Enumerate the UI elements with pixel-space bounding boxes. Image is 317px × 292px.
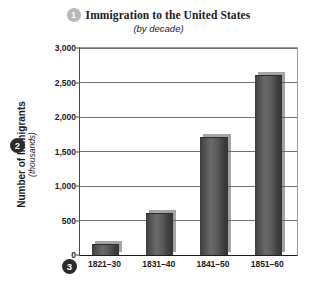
title-row: 1 Immigration to the United States <box>0 8 317 22</box>
y-axis-tick-label: 1,000 <box>55 181 76 191</box>
y-axis-tick-label: 2,000 <box>55 112 76 122</box>
x-axis-tick-label: 1851–60 <box>251 259 284 269</box>
bar-1841–50 <box>200 137 227 255</box>
y-axis-title: Number of Immigrants <box>16 101 27 208</box>
y-axis-title-rotated: Number of Immigrants (thousands) <box>16 101 37 208</box>
chart-subtitle: (by decade) <box>0 23 317 34</box>
x-axis-labels: 1821–301831–401841–501851–60 <box>79 259 298 275</box>
x-axis-tick-label: 1831–40 <box>142 259 175 269</box>
callout-badge-1: 1 <box>67 8 81 22</box>
y-axis-tick-label: 500 <box>62 216 76 226</box>
page-title: Immigration to the United States <box>86 9 251 21</box>
x-axis-tick-label: 1841–50 <box>196 259 229 269</box>
plot-area: 05001,0001,5002,0002,5003,000 <box>79 47 298 256</box>
callout-badge-3: 3 <box>62 259 77 274</box>
chart-header: 1 Immigration to the United States (by d… <box>0 8 317 34</box>
y-axis-tick-label: 3,000 <box>55 43 76 53</box>
bar-1821–30 <box>92 244 119 255</box>
bar-1851–60 <box>255 75 282 255</box>
bar-series <box>80 48 297 255</box>
y-axis-tick-label: 1,500 <box>55 147 76 157</box>
callout-badge-2: 2 <box>10 138 25 153</box>
bar-1831–40 <box>146 213 173 255</box>
y-axis-title-group: Number of Immigrants (thousands) <box>6 92 46 262</box>
x-axis-tick-label: 1821–30 <box>88 259 121 269</box>
y-axis-units: (thousands) <box>27 132 37 177</box>
y-axis-tick-label: 2,500 <box>55 78 76 88</box>
